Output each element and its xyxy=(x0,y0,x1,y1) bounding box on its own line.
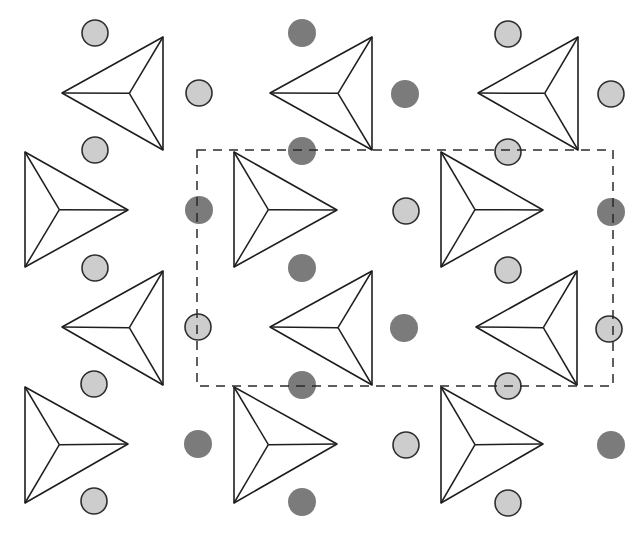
light-atom xyxy=(82,137,108,163)
tetrahedron-left-pointing xyxy=(270,271,372,385)
tetrahedron-left-pointing xyxy=(476,271,577,385)
dark-atom xyxy=(597,198,625,226)
dark-atom xyxy=(185,196,213,224)
tetrahedron-right-pointing xyxy=(25,152,128,267)
dark-atom xyxy=(288,371,316,399)
light-atom xyxy=(393,432,419,458)
dark-atom xyxy=(390,314,418,342)
dark-atom xyxy=(288,254,316,282)
light-atom xyxy=(393,198,419,224)
light-atom xyxy=(82,20,108,46)
dark-atom xyxy=(288,137,316,165)
crystal-structure-diagram xyxy=(0,0,636,533)
tetrahedron-right-pointing xyxy=(441,152,543,267)
tetrahedron-right-pointing xyxy=(234,387,337,503)
dark-atom xyxy=(288,19,316,47)
tetrahedron-right-pointing xyxy=(25,387,128,503)
tetrahedron-left-pointing xyxy=(478,37,578,150)
tetrahedron-right-pointing xyxy=(441,387,543,503)
tetrahedron-left-pointing xyxy=(270,37,372,150)
light-atom xyxy=(81,488,107,514)
light-atom xyxy=(495,139,521,165)
dark-atom xyxy=(391,80,419,108)
tetrahedron-right-pointing xyxy=(234,152,337,267)
tetrahedron-left-pointing xyxy=(62,37,163,150)
light-atom xyxy=(81,371,107,397)
light-atom xyxy=(185,314,211,340)
dark-atom xyxy=(184,430,212,458)
light-atom xyxy=(495,257,521,283)
dark-atom xyxy=(288,488,316,516)
light-atom xyxy=(82,255,108,281)
light-atom xyxy=(598,81,624,107)
light-atom xyxy=(495,21,521,47)
diagram-canvas xyxy=(0,0,636,533)
dark-atom xyxy=(597,431,625,459)
tetrahedron-left-pointing xyxy=(62,271,163,385)
light-atom xyxy=(186,80,212,106)
light-atom xyxy=(596,316,622,342)
light-atom xyxy=(495,490,521,516)
